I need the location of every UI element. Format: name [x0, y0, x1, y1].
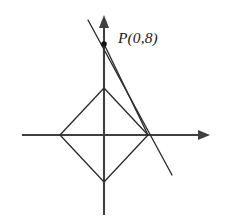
y-axis-arrowhead — [99, 15, 109, 28]
point-p-marker — [101, 41, 107, 47]
point-p-label: P(0,8) — [118, 30, 158, 46]
x-axis — [22, 130, 210, 140]
geometry-figure: P(0,8) — [0, 0, 225, 221]
x-axis-arrowhead — [198, 130, 210, 140]
chord-p-to-right-vertex-line — [104, 44, 148, 135]
geometry-canvas — [0, 0, 225, 221]
